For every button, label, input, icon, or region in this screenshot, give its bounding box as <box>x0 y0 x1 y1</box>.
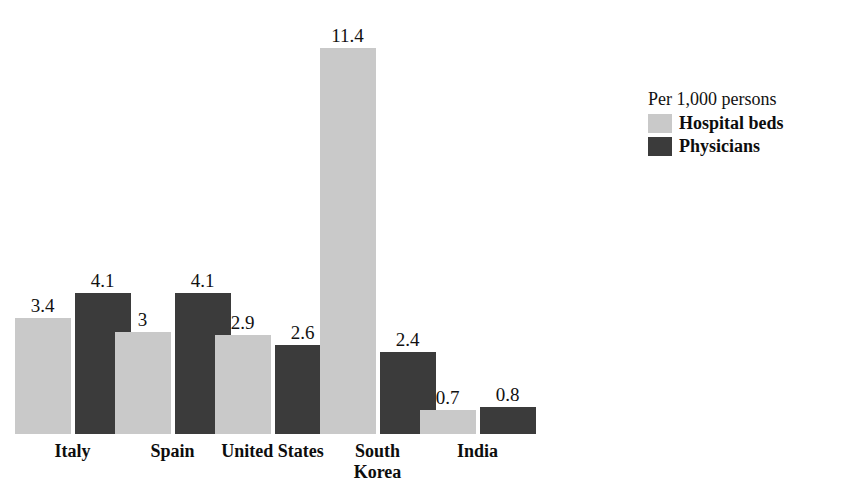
legend-item-hospital-beds[interactable]: Hospital beds <box>648 113 833 133</box>
bar-group-india: 0.7 0.8 India <box>415 0 540 497</box>
bar-hospital-beds[interactable] <box>15 318 71 434</box>
bar-group-bars: 0.7 0.8 <box>415 44 540 434</box>
category-label-india: India <box>415 441 540 462</box>
bar-hospital-beds[interactable] <box>420 410 476 434</box>
bar-wrap-beds: 0.7 <box>420 410 476 434</box>
bar-value-beds: 3 <box>138 310 148 330</box>
bar-wrap-physicians: 0.8 <box>480 407 536 434</box>
bar-wrap-beds: 3 <box>115 332 171 434</box>
bar-value-physicians: 0.8 <box>496 385 520 405</box>
legend-swatch-icon <box>648 114 672 133</box>
chart-legend: Per 1,000 persons Hospital beds Physicia… <box>648 88 833 156</box>
bar-value-beds: 3.4 <box>31 296 55 316</box>
bar-hospital-beds[interactable] <box>320 48 376 434</box>
bar-wrap-beds: 2.9 <box>215 335 271 434</box>
legend-title: Per 1,000 persons <box>648 88 833 110</box>
legend-swatch-icon <box>648 137 672 156</box>
plot-area: 3.4 4.1 Italy 3 4.1 <box>0 0 620 497</box>
bar-hospital-beds[interactable] <box>215 335 271 434</box>
chart-figure: 3.4 4.1 Italy 3 4.1 <box>0 0 841 497</box>
legend-item-label: Physicians <box>679 136 760 156</box>
bar-value-beds: 0.7 <box>436 388 460 408</box>
legend-item-physicians[interactable]: Physicians <box>648 136 833 156</box>
bar-physicians[interactable] <box>480 407 536 434</box>
bar-wrap-beds: 11.4 <box>320 48 376 434</box>
bar-value-beds: 11.4 <box>331 26 364 46</box>
legend-item-label: Hospital beds <box>679 113 784 133</box>
bar-value-physicians: 2.6 <box>291 323 315 343</box>
bar-value-beds: 2.9 <box>231 313 255 333</box>
category-label-line: India <box>415 441 540 462</box>
bar-hospital-beds[interactable] <box>115 332 171 434</box>
bar-wrap-beds: 3.4 <box>15 318 71 434</box>
